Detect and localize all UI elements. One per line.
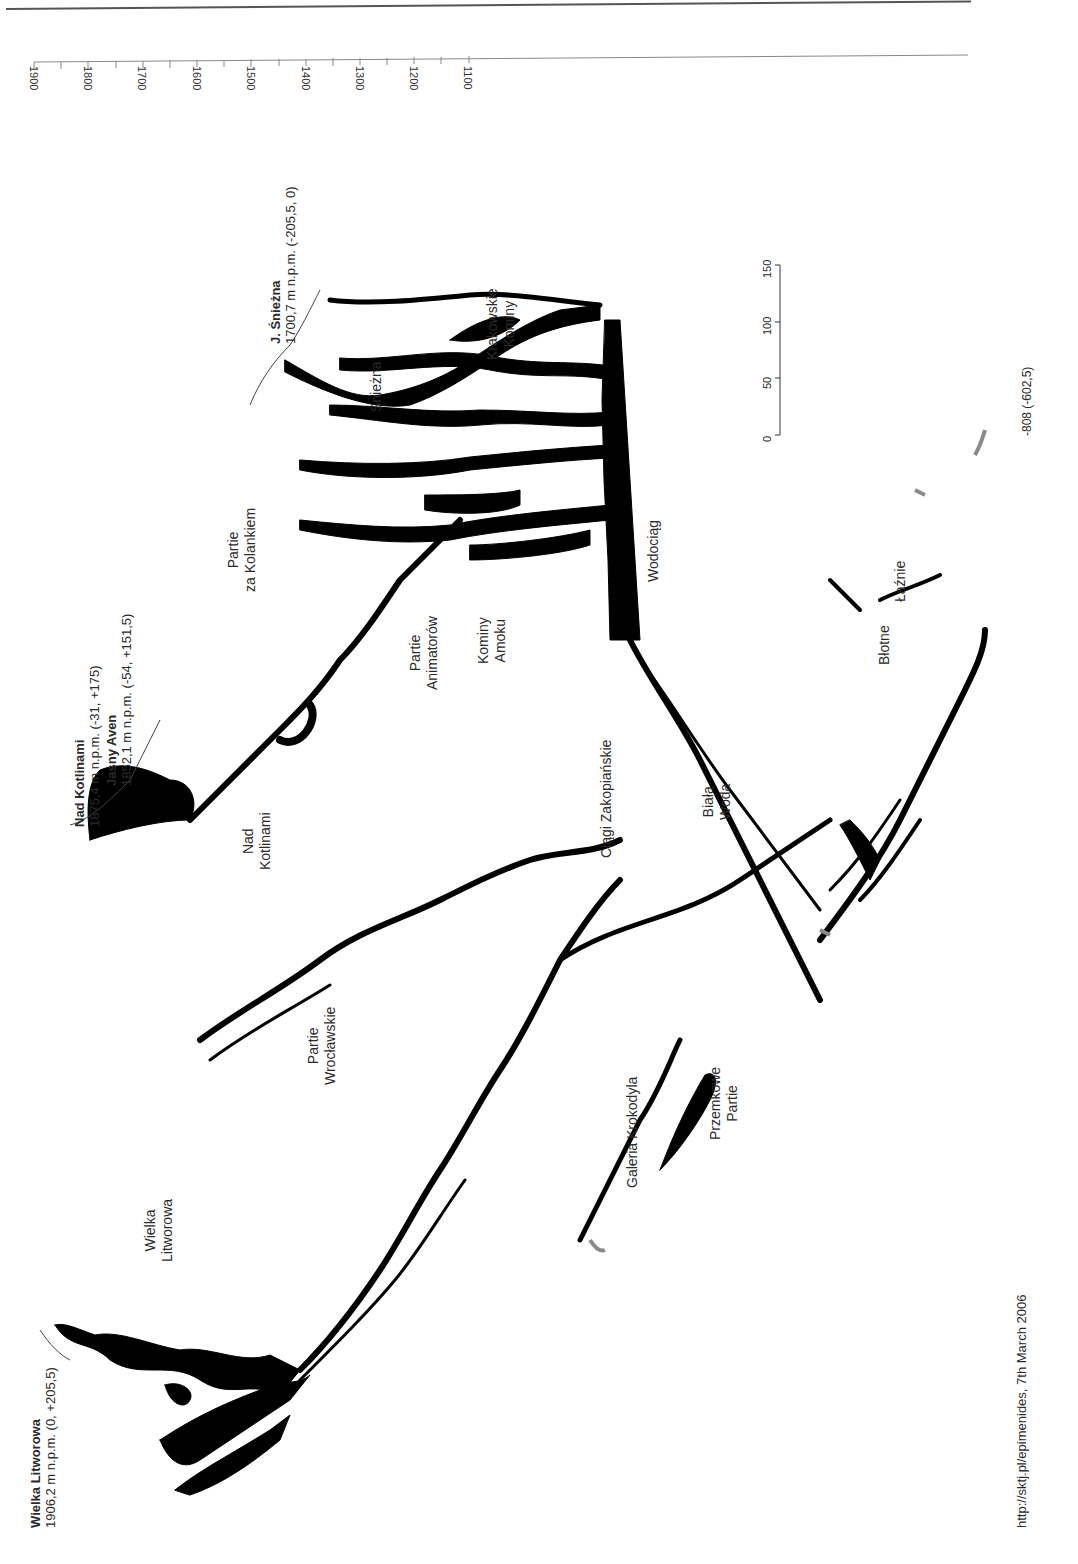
- source-footer: http://sktj.pl/epimenides, 7th March 200…: [1014, 1295, 1029, 1528]
- region-biala-woda: BiałaWoda: [700, 784, 734, 820]
- region-wodociag: Wodociąg: [645, 520, 662, 582]
- region-przemkowe-partie: PrzemkowePartie: [707, 1067, 741, 1140]
- region-sniezna: Śnieżna: [368, 361, 385, 412]
- entrance-j-sniezna: J. Śnieżna 1700,7 m n.p.m. (-205,5, 0): [268, 186, 298, 344]
- entrance-name: Wielka Litworowa: [28, 1419, 43, 1528]
- region-kominy-amoku: KominyAmoku: [475, 617, 509, 664]
- entrance-detail: 1875,4 m n.p.m. (-31, +175): [87, 665, 102, 827]
- entrance-name: Jasny Aven: [104, 715, 119, 786]
- scale-tick-150: 150: [760, 260, 775, 278]
- depth-note: -808 (-602,5): [1020, 367, 1035, 436]
- entrance-name: J. Śnieżna: [268, 280, 283, 344]
- entrance-detail: 1700,7 m n.p.m. (-205,5, 0): [283, 186, 298, 344]
- region-galeria-krokodyla: Galeria Krokodyla: [624, 1077, 641, 1188]
- cave-profile-page: 1900 1800 1700 1600 1500 1400 1300 1200 …: [0, 0, 1078, 1564]
- entrance-jasny-aven: Jasny Aven 1852,1 m n.p.m. (-54, +151,5): [104, 614, 134, 786]
- region-partie-wroclawskie: PartieWrocławskie: [305, 1007, 339, 1085]
- region-nad-kotlinami: NadKotlinami: [240, 812, 274, 870]
- region-ciagi-zakopianskie: Ciągi Zakopiańskie: [598, 740, 615, 858]
- scale-tick-100: 100: [760, 317, 775, 335]
- region-laznie: Łaźnie: [892, 561, 909, 602]
- entrance-wielka-litworowa: Wielka Litworowa 1906,2 m n.p.m. (0, +20…: [28, 1367, 58, 1528]
- scale-bar: [775, 265, 780, 435]
- entrance-name: Nad Kotlinami: [72, 740, 87, 827]
- entrance-detail: 1852,1 m n.p.m. (-54, +151,5): [119, 614, 134, 786]
- entrance-detail: 1906,2 m n.p.m. (0, +205,5): [43, 1367, 58, 1528]
- region-krakowskie-kominy: KrakowskieKominy: [484, 288, 518, 360]
- region-partie-za-kolankiem: Partieza Kolankiem: [225, 508, 259, 592]
- scale-tick-50: 50: [760, 377, 775, 389]
- scale-tick-0: 0: [760, 436, 775, 442]
- cave-map: [0, 0, 1078, 1564]
- region-blotne: Błotne: [876, 625, 893, 665]
- entrance-nad-kotlinami: Nad Kotlinami 1875,4 m n.p.m. (-31, +175…: [72, 665, 102, 827]
- region-partie-animatorow: PartieAnimatorów: [407, 616, 441, 690]
- region-wielka-litworowa: WielkaLitworowa: [142, 1199, 176, 1262]
